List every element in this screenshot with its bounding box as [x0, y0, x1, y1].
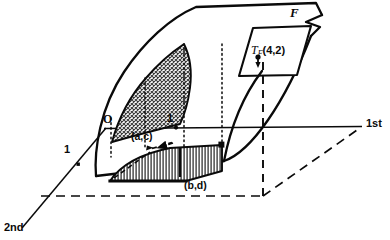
tangent-plane-point: (4,2)	[263, 44, 286, 56]
axis-second-tick-label: 1	[64, 144, 70, 155]
domain-corner-far-label: (b,d)	[184, 180, 207, 191]
tangent-plane-symbol: T	[251, 43, 258, 57]
surface-label: F	[290, 6, 299, 19]
tangent-stem	[224, 71, 262, 161]
figure-canvas: 1st 2nd O 1 1 (a,c) (b,d) F TF(4,2)	[0, 0, 390, 240]
domain-rectangle	[110, 142, 224, 181]
domain-corner-marker	[218, 142, 224, 148]
origin-label: O	[103, 113, 112, 125]
domain-corner-near-label: (a,c)	[131, 131, 153, 142]
axis-second-label: 2nd	[4, 222, 24, 233]
tangent-plane-label: TF(4,2)	[251, 44, 285, 58]
diagram-svg	[0, 0, 390, 240]
axis-first-label: 1st	[366, 118, 382, 129]
axis-second-tick	[77, 163, 80, 166]
axis-first-tick-label: 1	[167, 113, 173, 124]
